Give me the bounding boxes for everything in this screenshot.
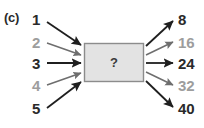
output-label-24: 24 xyxy=(178,56,195,71)
output-arrow-40 xyxy=(146,81,173,107)
hidden-unit-box xyxy=(85,44,144,82)
output-arrow-16 xyxy=(146,42,173,55)
input-arrow-5 xyxy=(47,82,81,108)
input-arrow-group xyxy=(47,22,81,108)
input-label-4: 4 xyxy=(32,78,40,93)
panel-label: (c) xyxy=(4,10,19,25)
input-arrow-4 xyxy=(47,73,81,85)
output-label-8: 8 xyxy=(178,12,186,27)
output-arrow-8 xyxy=(146,21,173,46)
input-arrow-1 xyxy=(47,22,81,45)
output-arrow-group xyxy=(146,21,173,107)
output-label-32: 32 xyxy=(178,78,195,93)
output-label-16: 16 xyxy=(178,35,195,50)
input-label-2: 2 xyxy=(32,35,40,50)
output-label-40: 40 xyxy=(178,101,195,116)
figure-panel-c: (c) ? 12345 816243240 xyxy=(0,0,204,128)
input-label-5: 5 xyxy=(32,101,40,116)
diagram-canvas xyxy=(0,0,204,128)
input-label-1: 1 xyxy=(32,12,40,27)
output-arrow-32 xyxy=(146,72,173,85)
input-label-3: 3 xyxy=(32,56,40,71)
input-arrow-2 xyxy=(47,43,81,55)
